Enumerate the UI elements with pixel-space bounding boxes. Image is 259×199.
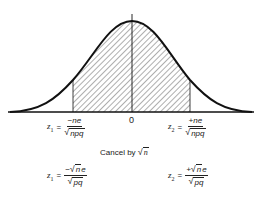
z1-symbol: z1 — [47, 170, 54, 182]
numerator: +ne — [188, 116, 204, 127]
z2-formula-pq: z2 = +√ne √ pq — [168, 164, 208, 187]
fraction: −ne √ npq — [64, 116, 84, 138]
equals-sign: = — [178, 123, 183, 132]
z2-symbol: z2 — [168, 170, 175, 182]
shaded-region — [10, 21, 252, 112]
z2-formula-npq: z2 = +ne √ npq — [168, 116, 206, 138]
z2-symbol: z2 — [168, 121, 175, 133]
equals-sign: = — [57, 123, 62, 132]
cancel-by-sqrt-n-caption: Cancel by √ n — [100, 147, 149, 157]
fraction: +√ne √ pq — [185, 164, 208, 187]
denominator: √ pq — [68, 176, 84, 187]
z1-symbol: z1 — [47, 121, 54, 133]
denominator: √ npq — [185, 127, 205, 138]
numerator: +√ne — [185, 164, 208, 176]
numerator: −√ne — [64, 164, 87, 176]
center-zero-label: 0 — [129, 115, 134, 125]
denominator: √ pq — [189, 176, 205, 187]
fraction: +ne √ npq — [185, 116, 205, 138]
z1-formula-pq: z1 = −√ne √ pq — [47, 164, 87, 187]
normal-curve-diagram — [0, 0, 259, 199]
numerator: −ne — [67, 116, 83, 127]
z1-formula-npq: z1 = −ne √ npq — [47, 116, 85, 138]
denominator: √ npq — [64, 127, 84, 138]
equals-sign: = — [178, 171, 183, 180]
equals-sign: = — [57, 171, 62, 180]
fraction: −√ne √ pq — [64, 164, 87, 187]
